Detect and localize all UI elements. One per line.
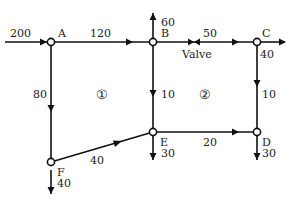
arrow-icon: [40, 39, 47, 46]
node-c-label: C: [262, 27, 270, 40]
pipe-c-d-flow: 10: [262, 88, 276, 101]
outflow-c-label: 40: [260, 48, 274, 61]
valve-label: Valve: [181, 48, 212, 61]
arrow-icon: [279, 39, 286, 46]
pipe-f-e-flow: 40: [90, 154, 104, 167]
node-a: [47, 38, 54, 45]
pipe-a-b-flow: 120: [90, 27, 111, 40]
node-f-label: F: [57, 166, 65, 179]
node-b: [149, 38, 156, 45]
pipe-f-e: 40: [51, 132, 153, 167]
pipe-a-f: 80: [33, 42, 55, 162]
arrow-icon: [48, 187, 55, 194]
node-b-label: B: [161, 27, 169, 40]
node-d-label: D: [262, 136, 271, 149]
node-f: [47, 158, 54, 165]
arrow-icon: [48, 105, 55, 112]
arrow-icon: [254, 80, 261, 87]
pipe-network-diagram: 200 120 50 Valve 40 60 80 10: [0, 0, 291, 202]
pipe-a-b: 120: [51, 27, 153, 46]
node-a-label: A: [57, 27, 67, 40]
arrow-icon: [254, 153, 261, 160]
arrow-icon: [126, 39, 133, 46]
inflow-a-label: 200: [10, 27, 31, 40]
arrow-icon: [150, 13, 157, 20]
node-e: [149, 128, 156, 135]
outflow-c: 40: [260, 39, 286, 62]
inflow-a: 200: [5, 27, 47, 46]
pipe-b-e-flow: 10: [161, 88, 175, 101]
pipe-b-c-flow: 50: [203, 27, 217, 40]
arrow-icon: [232, 39, 239, 46]
pipe-e-d-flow: 20: [203, 136, 217, 149]
node-d: [253, 128, 260, 135]
pipe-a-f-flow: 80: [33, 88, 47, 101]
node-e-label: E: [160, 136, 168, 149]
loop-1-label: ①: [96, 87, 108, 102]
node-c: [253, 38, 260, 45]
arrow-icon: [232, 129, 239, 136]
pipe-b-e: 10: [150, 42, 176, 132]
pipe-e-d: 20: [153, 129, 257, 150]
arrow-icon: [150, 153, 157, 160]
arrow-icon: [150, 90, 157, 97]
loop-2-label: ②: [199, 87, 211, 102]
valve-icon: [188, 39, 200, 46]
arrow-icon: [113, 141, 122, 148]
